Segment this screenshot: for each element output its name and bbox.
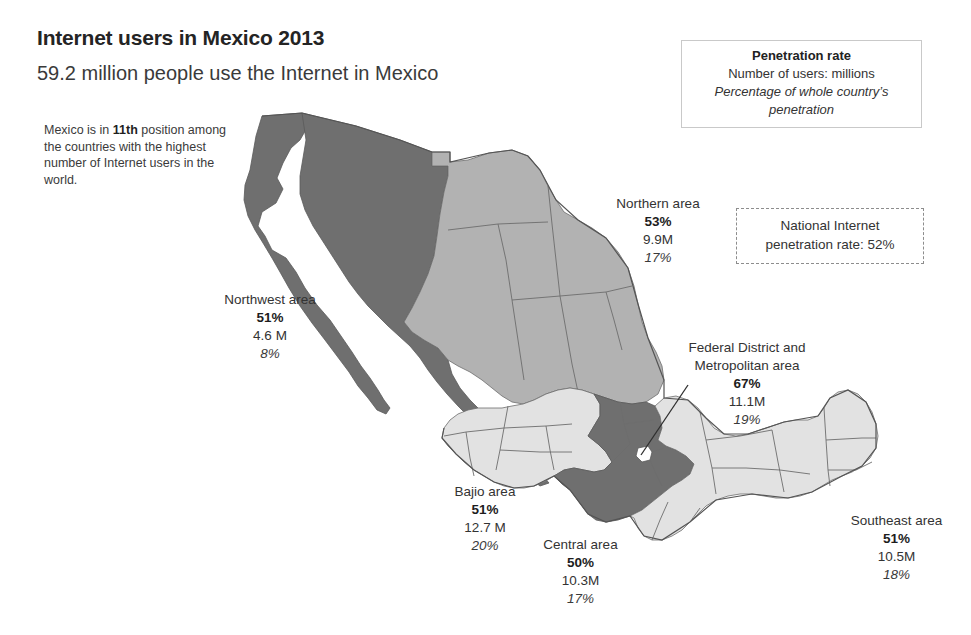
- region-name: Northwest area: [205, 291, 335, 309]
- national-penetration-callout: National Internet penetration rate: 52%: [736, 208, 924, 264]
- region-label-federal-district: Federal District and Metropolitan area 6…: [672, 339, 822, 429]
- region-label-southeast: Southeast area 51% 10.5M 18%: [834, 512, 959, 584]
- region-rate: 67%: [672, 375, 822, 393]
- region-label-northwest: Northwest area 51% 4.6 M 8%: [205, 291, 335, 363]
- intro-paragraph: Mexico is in 11th position among the cou…: [44, 122, 234, 188]
- region-share: 17%: [523, 590, 638, 608]
- region-share: 8%: [205, 345, 335, 363]
- legend-line-1: Penetration rate: [686, 47, 917, 65]
- region-name: Southeast area: [834, 512, 959, 530]
- region-name: Northern area: [598, 195, 718, 213]
- page-title: Internet users in Mexico 2013: [37, 26, 324, 50]
- region-name-line-1: Federal District and: [672, 339, 822, 357]
- region-users: 12.7 M: [430, 519, 540, 537]
- region-users: 4.6 M: [205, 327, 335, 345]
- region-rate: 51%: [430, 501, 540, 519]
- region-rate: 53%: [598, 213, 718, 231]
- region-rate: 51%: [834, 530, 959, 548]
- region-users: 9.9M: [598, 231, 718, 249]
- legend-line-2: Number of users: millions: [686, 65, 917, 83]
- region-rate: 51%: [205, 309, 335, 327]
- region-share: 19%: [672, 411, 822, 429]
- national-line-1: National Internet: [741, 216, 919, 235]
- region-label-northern: Northern area 53% 9.9M 17%: [598, 195, 718, 267]
- infographic-page: Internet users in Mexico 2013 59.2 milli…: [0, 0, 971, 635]
- region-name-line-2: Metropolitan area: [672, 357, 822, 375]
- region-share: 17%: [598, 249, 718, 267]
- region-share: 18%: [834, 566, 959, 584]
- region-label-central: Central area 50% 10.3M 17%: [523, 536, 638, 608]
- penetration-rate-legend: Penetration rate Number of users: millio…: [681, 40, 922, 128]
- region-name: Central area: [523, 536, 638, 554]
- region-name: Bajio area: [430, 483, 540, 501]
- national-line-2: penetration rate: 52%: [741, 235, 919, 254]
- region-users: 11.1M: [672, 393, 822, 411]
- region-rate: 50%: [523, 554, 638, 572]
- page-subtitle: 59.2 million people use the Internet in …: [37, 62, 438, 85]
- intro-highlight: 11th: [113, 123, 138, 137]
- region-users: 10.3M: [523, 572, 638, 590]
- region-users: 10.5M: [834, 548, 959, 566]
- legend-line-3: Percentage of whole country’s penetratio…: [686, 83, 917, 119]
- intro-part1: Mexico is in: [44, 123, 113, 137]
